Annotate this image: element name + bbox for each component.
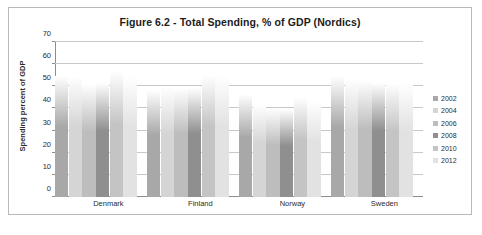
bar-fill (174, 88, 187, 197)
legend-swatch (433, 146, 438, 151)
bar-fill (239, 94, 252, 197)
bar-fill (372, 83, 385, 197)
chart-legend: 200220042006200820102012 (433, 92, 481, 167)
bar[interactable] (358, 80, 371, 197)
legend-swatch (433, 121, 438, 126)
y-tick-label: 40 (43, 95, 51, 104)
legend-swatch (433, 108, 438, 113)
y-tick-label: 70 (43, 29, 51, 38)
x-axis-label: Denmark (55, 199, 147, 208)
legend-swatch (433, 96, 438, 101)
y-tick-label: 60 (43, 51, 51, 60)
chart-title: Figure 6.2 - Total Spending, % of GDP (N… (9, 16, 471, 28)
bar[interactable] (55, 76, 68, 197)
bar[interactable] (110, 71, 123, 197)
legend-item[interactable]: 2010 (433, 142, 481, 154)
bar[interactable] (69, 76, 82, 197)
bar[interactable] (96, 83, 109, 197)
bar-fill (307, 101, 320, 197)
bar-fill (96, 83, 109, 197)
bar-fill (82, 84, 95, 197)
x-axis-label: Sweden (331, 199, 423, 208)
bar[interactable] (331, 76, 344, 197)
y-tick-label: 10 (43, 161, 51, 170)
bar[interactable] (147, 90, 160, 197)
bar-fill (399, 83, 412, 197)
bar-fill (110, 71, 123, 197)
bar[interactable] (123, 76, 136, 197)
bar-fill (215, 75, 228, 197)
bar[interactable] (161, 87, 174, 197)
bar-group (55, 42, 147, 197)
plot-area: 010203040506070 (55, 42, 423, 197)
bar-group (147, 42, 239, 197)
legend-item[interactable]: 2002 (433, 92, 481, 104)
bar-group (331, 42, 423, 197)
legend-label: 2006 (441, 120, 457, 127)
bar-fill (358, 80, 371, 197)
bar-fill (294, 97, 307, 197)
bar[interactable] (307, 101, 320, 197)
chart-container: Figure 6.2 - Total Spending, % of GDP (N… (8, 7, 472, 215)
bar-group (239, 42, 331, 197)
y-tick-label: 0 (47, 184, 51, 193)
bar[interactable] (188, 88, 201, 197)
x-axis-label: Norway (239, 199, 331, 208)
bar[interactable] (174, 88, 187, 197)
x-axis-category-labels: DenmarkFinlandNorwaySweden (55, 199, 423, 208)
y-tick-label: 30 (43, 117, 51, 126)
legend-label: 2010 (441, 145, 457, 152)
bar[interactable] (253, 104, 266, 197)
legend-swatch (433, 133, 438, 138)
bar[interactable] (372, 83, 385, 197)
legend-item[interactable]: 2012 (433, 155, 481, 167)
bar[interactable] (345, 79, 358, 197)
legend-label: 2004 (441, 107, 457, 114)
bar[interactable] (280, 109, 293, 197)
bar-fill (202, 75, 215, 197)
legend-item[interactable]: 2006 (433, 117, 481, 129)
bar-fill (386, 83, 399, 197)
y-axis-title: Spending percent of GDP (18, 46, 30, 166)
bar-fill (55, 76, 68, 197)
bar-fill (147, 90, 160, 197)
bar-fill (161, 87, 174, 197)
bar-fill (188, 88, 201, 197)
legend-item[interactable]: 2004 (433, 105, 481, 117)
bar-fill (266, 108, 279, 197)
bars-layer (55, 42, 423, 197)
legend-item[interactable]: 2008 (433, 130, 481, 142)
legend-swatch (433, 158, 438, 163)
bar-fill (253, 104, 266, 197)
y-tick-label: 20 (43, 139, 51, 148)
bar-fill (280, 109, 293, 197)
legend-label: 2012 (441, 157, 457, 164)
bar[interactable] (239, 94, 252, 197)
bar[interactable] (202, 75, 215, 197)
bar[interactable] (266, 108, 279, 197)
y-tick-label: 50 (43, 73, 51, 82)
bar-fill (331, 76, 344, 197)
bar[interactable] (294, 97, 307, 197)
bar[interactable] (399, 83, 412, 197)
legend-label: 2008 (441, 132, 457, 139)
bar[interactable] (215, 75, 228, 197)
bar-fill (345, 79, 358, 197)
bar[interactable] (386, 83, 399, 197)
bar-fill (69, 76, 82, 197)
x-axis-label: Finland (147, 199, 239, 208)
bar-fill (123, 76, 136, 197)
legend-label: 2002 (441, 95, 457, 102)
bar[interactable] (82, 84, 95, 197)
